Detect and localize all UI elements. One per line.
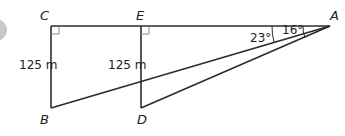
line-DA (141, 26, 330, 108)
right-angle-mark-E (141, 26, 149, 34)
point-label-B: B (40, 112, 49, 127)
trigonometry-diagram: C E A B D 125 m 125 m 23° 16° (0, 0, 345, 136)
length-label-ED: 125 m (108, 58, 146, 72)
length-label-CB: 125 m (19, 58, 57, 72)
point-label-A: A (329, 8, 339, 23)
line-BA (51, 26, 330, 108)
point-label-C: C (40, 8, 50, 23)
angle-label-16: 16° (282, 23, 303, 37)
angle-label-23: 23° (250, 31, 271, 45)
angle-arc-23 (272, 26, 274, 42)
question-number-badge (0, 19, 7, 41)
right-angle-mark-C (51, 26, 59, 34)
point-label-D: D (137, 112, 147, 127)
point-label-E: E (136, 8, 145, 23)
